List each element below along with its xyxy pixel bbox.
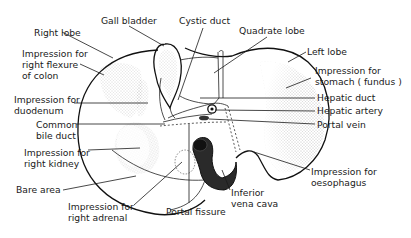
label-quadrate-lobe: Quadrate lobe [239, 25, 305, 36]
label-impression-adrenal-2: right adrenal [68, 212, 127, 223]
inferior-vena-cava [193, 138, 237, 191]
label-ivc-2: vena cava [231, 198, 278, 209]
label-right-lobe: Right lobe [34, 27, 81, 38]
label-impression-colon-3: of colon [22, 70, 59, 81]
label-impression-colon-2: right flexure [22, 59, 79, 70]
label-portal-vein: Portal vein [317, 119, 366, 130]
colon-impression [100, 63, 143, 118]
label-impression-oesophagus-2: oesophagus [311, 177, 367, 188]
label-impression-duodenum-1: Impression for [14, 94, 80, 105]
label-common-bile-duct-2: bile duct [36, 130, 76, 141]
quadrate-lobe [180, 51, 223, 105]
label-bare-area: Bare area [16, 184, 61, 195]
label-portal-fissure: Portal fissure [166, 206, 226, 217]
label-cystic-duct: Cystic duct [179, 15, 230, 26]
liver-diagram: Right lobe Gall bladder Cystic duct Quad… [0, 0, 411, 238]
label-impression-kidney-1: Impression for [24, 147, 90, 158]
label-left-lobe: Left lobe [307, 46, 347, 57]
label-hepatic-artery: Hepatic artery [317, 105, 384, 116]
label-impression-stomach-1: Impression for [315, 65, 381, 76]
label-impression-oesophagus-1: Impression for [311, 166, 377, 177]
gall-bladder [154, 44, 181, 118]
label-impression-duodenum-2: duodenum [14, 105, 63, 116]
label-hepatic-duct: Hepatic duct [317, 92, 376, 103]
label-common-bile-duct-1: Common [36, 119, 78, 130]
label-ivc-1: Inferior [231, 187, 264, 198]
label-impression-adrenal-1: Impression for [68, 201, 134, 212]
label-gall-bladder: Gall bladder [101, 15, 157, 26]
duodenum-impression [137, 78, 165, 120]
adrenal-impression [175, 150, 195, 174]
label-impression-stomach-2: stomach ( fundus ) [315, 76, 402, 87]
label-impression-kidney-2: right kidney [24, 158, 80, 169]
label-impression-colon-1: Impression for [22, 48, 88, 59]
